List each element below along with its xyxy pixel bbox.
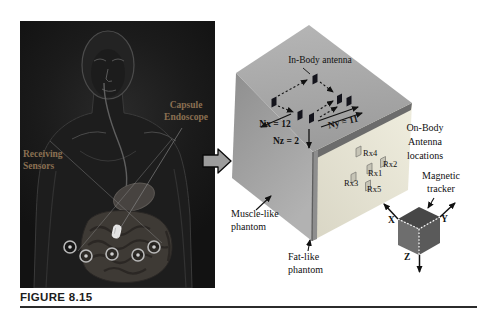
rx3-label: Rx3 [344, 177, 358, 190]
photo-panel: Capsule Endoscope Receiving Sensors [20, 21, 215, 288]
on-body-antenna-label-line3: locations [399, 149, 451, 163]
nz-label: Nz = 2 [266, 135, 306, 148]
ny-label: Ny = 11 [321, 111, 365, 133]
array-dashed-arrows [278, 80, 337, 117]
fat-phantom-label-line2: phantom [288, 264, 323, 277]
receiving-sensors-label-line2: Sensors [23, 161, 63, 173]
caption-rule [20, 306, 477, 308]
magnetic-pointer-arrow [428, 198, 434, 208]
on-body-antenna-label-line2: Antenna [399, 135, 451, 149]
capsule-endoscope-label: Capsule Endoscope [146, 100, 226, 123]
on-body-antenna-label: On-Body Antenna locations [399, 121, 451, 163]
muscle-phantom-label: Muscle-like phantom [231, 208, 279, 233]
axis-z-label: Z [404, 251, 410, 264]
sensor-icon [64, 241, 76, 253]
sensor-icon [106, 248, 118, 260]
rx4-antenna-icon [356, 146, 361, 157]
axis-x-label: X [388, 214, 395, 227]
tracker-hidden-axes-dotted [398, 217, 440, 255]
in-body-antenna-icon [309, 113, 314, 124]
receiving-sensors-label-line1: Receiving [23, 149, 63, 161]
front-left-edge-line [312, 152, 313, 241]
sensor-icon [148, 241, 160, 253]
phantom-pointers [256, 196, 434, 251]
on-body-antenna-label-line1: On-Body [399, 121, 451, 135]
axis-y-label: Y [441, 213, 448, 226]
muscle-phantom-label-line2: phantom [231, 221, 279, 234]
sensor-icon [80, 250, 92, 262]
figure-canvas: Capsule Endoscope Receiving Sensors [0, 0, 479, 314]
figure-caption: FIGURE 8.15 [20, 291, 92, 303]
in-body-antenna-label: In-Body antenna [283, 54, 357, 67]
fat-edge-left-strip [312, 150, 318, 241]
rx5-label: Rx5 [367, 183, 381, 196]
rx4-label: Rx4 [363, 147, 377, 160]
capsule-endoscope-label-line2: Endoscope [146, 112, 226, 124]
tracker-right-face [419, 217, 440, 255]
in-body-antenna-icon [347, 96, 352, 107]
nx-label: Nx = 12 [252, 118, 298, 131]
capsule-endoscope-label-line1: Capsule [146, 100, 226, 112]
in-body-antenna-icon [272, 97, 277, 108]
magnetic-tracker-label-line2: tracker [417, 183, 465, 196]
rx1-label: Rx1 [368, 167, 382, 180]
magnetic-tracker-label-line1: Magnetic [417, 170, 465, 183]
magnetic-tracker-label: Magnetic tracker [417, 170, 465, 195]
in-body-antenna-icon [313, 74, 318, 85]
tracker-top-face [398, 207, 440, 229]
sensor-icon [132, 249, 144, 261]
receiving-sensors-label: Receiving Sensors [23, 149, 63, 172]
rx2-label: Rx2 [383, 158, 397, 171]
fat-pointer-arrow [308, 240, 310, 251]
fat-phantom-label: Fat-like phantom [288, 251, 323, 276]
in-body-pointer-line [303, 68, 310, 74]
in-body-antenna-icon [298, 110, 303, 121]
tracker-left-face [398, 219, 419, 255]
muscle-phantom-label-line1: Muscle-like [231, 208, 279, 221]
in-body-antenna-icon [337, 94, 342, 105]
fat-phantom-label-line1: Fat-like [288, 251, 323, 264]
